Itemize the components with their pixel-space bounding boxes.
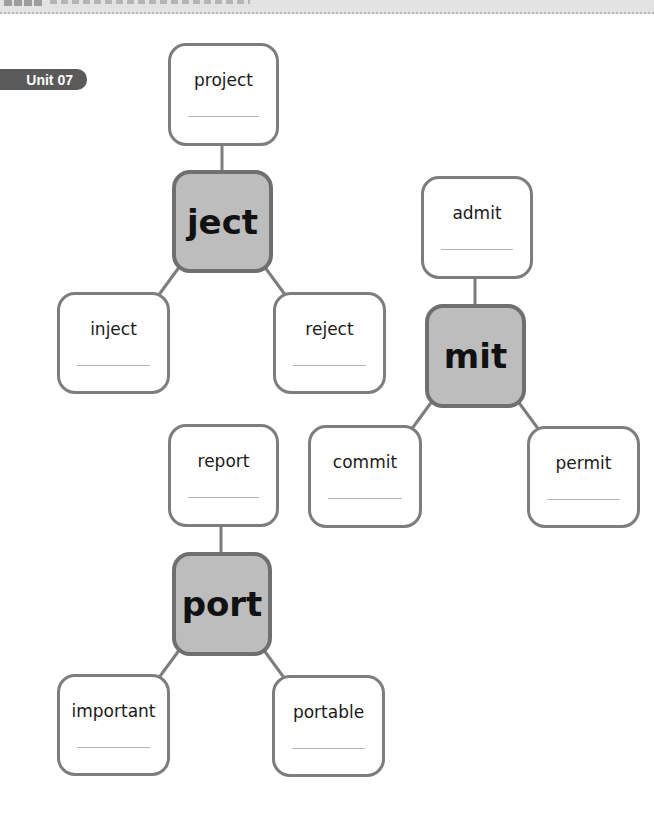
word-label: admit <box>424 203 530 223</box>
word-label: reject <box>276 319 383 339</box>
root-box-port: port <box>172 552 272 656</box>
word-label: portable <box>275 702 382 722</box>
word-box-report: report <box>168 424 279 527</box>
word-box-admit: admit <box>421 176 533 279</box>
word-label: commit <box>311 452 419 472</box>
word-label: project <box>171 70 276 90</box>
answer-blank[interactable] <box>293 365 366 366</box>
answer-blank[interactable] <box>328 498 402 499</box>
word-box-reject: reject <box>273 292 386 394</box>
answer-blank[interactable] <box>292 748 365 749</box>
word-box-important: important <box>57 674 170 776</box>
word-label: permit <box>530 453 637 473</box>
answer-blank[interactable] <box>188 497 259 498</box>
word-box-inject: inject <box>57 292 170 394</box>
answer-blank[interactable] <box>188 116 259 117</box>
root-box-ject: ject <box>172 170 273 273</box>
word-label: inject <box>60 319 167 339</box>
word-box-commit: commit <box>308 425 422 528</box>
word-box-portable: portable <box>272 675 385 777</box>
answer-blank[interactable] <box>77 747 150 748</box>
word-box-project: project <box>168 43 279 146</box>
answer-blank[interactable] <box>441 249 513 250</box>
root-box-mit: mit <box>425 304 526 408</box>
word-label: important <box>60 701 167 721</box>
answer-blank[interactable] <box>547 499 620 500</box>
word-box-permit: permit <box>527 426 640 528</box>
word-label: report <box>171 451 276 471</box>
answer-blank[interactable] <box>77 365 150 366</box>
